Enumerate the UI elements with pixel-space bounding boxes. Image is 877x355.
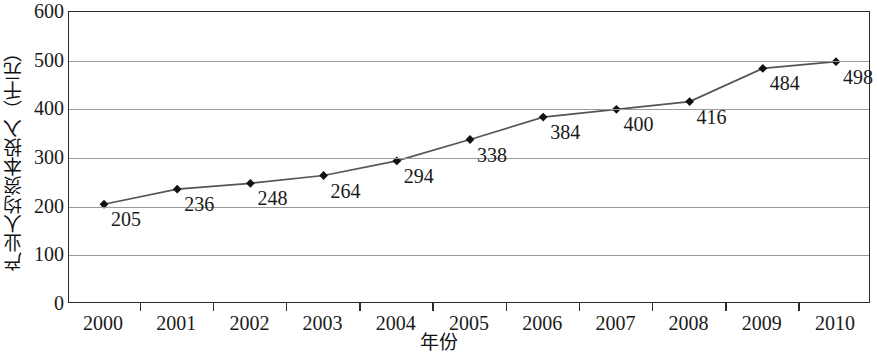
gridline	[69, 158, 869, 159]
data-point-label: 338	[477, 145, 507, 165]
gridline	[69, 255, 869, 256]
x-axis-tick	[652, 303, 653, 311]
data-point-marker	[173, 185, 182, 194]
gridline	[69, 61, 869, 62]
data-point-marker	[758, 64, 767, 73]
data-point-marker	[539, 113, 548, 122]
line-chart: 产业人均资本投入（千元） 0100200300400500600 2000200…	[0, 0, 877, 355]
gridline	[69, 109, 869, 110]
data-point-label: 294	[404, 166, 434, 186]
y-axis-tick-label: 200	[20, 196, 64, 216]
plot-area	[68, 11, 870, 303]
x-axis-tick	[725, 303, 726, 311]
data-point-label: 205	[111, 209, 141, 229]
y-axis-tick-label: 300	[20, 147, 64, 167]
series-line	[104, 62, 836, 205]
x-axis-title: 年份	[0, 331, 877, 353]
x-axis-tick	[140, 303, 141, 311]
y-axis-tick-label: 500	[20, 50, 64, 70]
x-axis-tick	[432, 303, 433, 311]
data-point-marker	[319, 171, 328, 180]
data-point-marker	[466, 135, 475, 144]
y-axis-tick-label: 400	[20, 98, 64, 118]
y-axis-tick-label: 600	[20, 1, 64, 21]
data-point-label: 236	[184, 194, 214, 214]
y-axis-tick-label: 100	[20, 244, 64, 264]
data-point-label: 400	[623, 114, 653, 134]
data-point-marker	[246, 179, 255, 188]
data-point-marker	[685, 97, 694, 106]
data-point-label: 498	[843, 67, 873, 87]
data-point-label: 416	[697, 107, 727, 127]
y-axis-tick-label: 0	[20, 293, 64, 313]
data-point-label: 248	[257, 188, 287, 208]
y-axis-tick-labels: 0100200300400500600	[12, 0, 64, 355]
x-axis-tick	[506, 303, 507, 311]
x-axis-tick	[213, 303, 214, 311]
x-axis-tick	[286, 303, 287, 311]
data-point-label: 384	[550, 122, 580, 142]
data-point-label: 264	[331, 181, 361, 201]
data-point-label: 484	[770, 73, 800, 93]
x-axis-tick	[359, 303, 360, 311]
x-axis-tick	[798, 303, 799, 311]
x-axis-tick	[579, 303, 580, 311]
